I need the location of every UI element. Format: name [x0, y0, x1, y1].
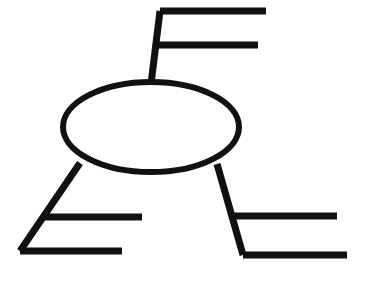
- diagram-svg: [0, 0, 368, 281]
- branch-group-top: [151, 11, 266, 84]
- bottom-right-branch-stem[interactable]: [217, 164, 243, 255]
- bottom-left-branch-stem[interactable]: [20, 163, 80, 251]
- branch-group-bottom-left: [20, 163, 142, 251]
- branch-group-bottom-right: [217, 164, 347, 255]
- diagram-canvas: [0, 0, 368, 281]
- central-node-ellipse[interactable]: [63, 82, 239, 172]
